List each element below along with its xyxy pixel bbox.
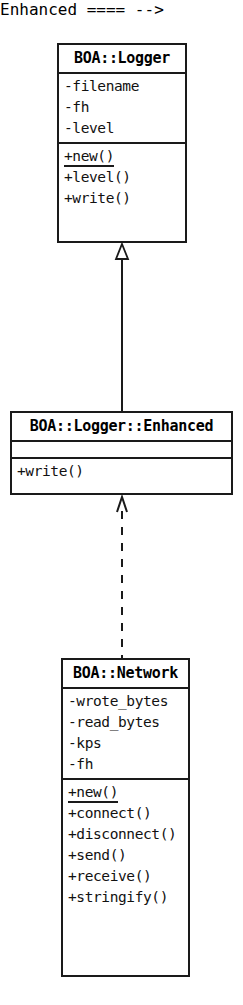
open-arrowhead [116,495,132,513]
methods-compartment: +write() [12,457,231,485]
class-box-boa-logger[interactable]: BOA::Logger -filename -fh -level +new() … [57,43,187,243]
attribute-item: -kps [63,733,188,754]
hollow-triangle-arrowhead [116,243,130,261]
generalization-connector-enhanced-to-logger [116,243,130,411]
class-name-label: BOA::Network [73,664,178,683]
dependency-connector-network-to-enhanced [116,495,130,658]
attribute-item: -wrote_bytes [63,691,188,712]
methods-compartment: +new() +level() +write() [59,142,185,212]
methods-compartment: +new() +connect() +disconnect() +send() … [63,778,188,911]
attribute-item: -read_bytes [63,712,188,733]
method-item-static: +new() [63,782,188,803]
connector-line [121,260,123,411]
method-item: +disconnect() [63,824,188,845]
attributes-compartment: -wrote_bytes -read_bytes -kps -fh [63,687,188,778]
class-name-label: BOA::Logger::Enhanced [30,417,213,436]
method-item-static: +new() [59,146,185,167]
class-box-boa-network[interactable]: BOA::Network -wrote_bytes -read_bytes -k… [61,658,190,977]
class-name-compartment: BOA::Logger::Enhanced [12,413,231,440]
method-item: +write() [59,188,185,209]
attributes-compartment: -filename -fh -level [59,72,185,142]
attribute-item: -filename [59,76,185,97]
attributes-compartment-empty [12,440,231,457]
method-item: +send() [63,845,188,866]
uml-class-diagram: BOA::Logger -filename -fh -level +new() … [0,0,243,1005]
attribute-item: -level [59,118,185,139]
method-item: +stringify() [63,887,188,908]
method-item: +receive() [63,866,188,887]
class-box-boa-logger-enhanced[interactable]: BOA::Logger::Enhanced +write() [10,411,233,495]
method-item: +write() [12,461,231,482]
class-name-compartment: BOA::Network [63,660,188,687]
method-item: +level() [59,167,185,188]
class-name-compartment: BOA::Logger [59,45,185,72]
class-name-label: BOA::Logger [74,49,170,68]
method-item: +connect() [63,803,188,824]
attribute-item: -fh [63,754,188,775]
connector-line-dashed [121,511,123,658]
attribute-item: -fh [59,97,185,118]
